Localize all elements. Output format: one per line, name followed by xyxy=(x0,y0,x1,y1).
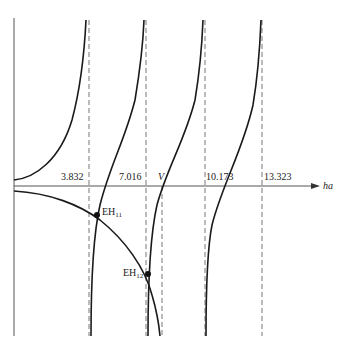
eh11-main: EH xyxy=(102,206,115,217)
axis-arrow-icon xyxy=(311,183,320,189)
eh12-sub: 12 xyxy=(136,272,143,280)
intersection-label-eh12: EH12 xyxy=(123,268,143,280)
curve-rhs xyxy=(14,191,160,336)
intersection-eh11-dot xyxy=(94,212,100,218)
tick-label-7016: 7.016 xyxy=(119,172,142,182)
curve-branch-2 xyxy=(148,20,203,336)
intersection-eh12-dot xyxy=(145,271,151,277)
diagram-canvas xyxy=(0,0,346,343)
tick-label-3832: 3.832 xyxy=(61,172,84,182)
tick-label-13323: 13.323 xyxy=(264,172,292,182)
intersection-label-eh11: EH11 xyxy=(102,207,122,219)
asymptote-lines xyxy=(89,20,262,336)
eh11-sub: 11 xyxy=(115,211,122,219)
tick-label-10173: 10.173 xyxy=(206,172,234,182)
curve-branch-0 xyxy=(14,20,86,180)
eh12-main: EH xyxy=(123,267,136,278)
axis-label-ha: ha xyxy=(323,181,333,191)
cutoff-label-v: V xyxy=(158,172,164,182)
